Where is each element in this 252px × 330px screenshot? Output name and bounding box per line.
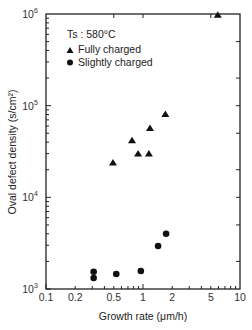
circle-marker-icon [90,269,97,276]
triangle-marker-icon [109,159,117,166]
x-tick-label: 5 [208,291,214,303]
y-tick-label: 103 [22,282,38,295]
circle-marker-icon [138,268,145,275]
triangle-marker-icon [161,111,169,118]
triangle-marker-icon [67,47,74,53]
triangle-marker-icon [134,150,142,157]
x-tick-label: 0.5 [106,291,121,303]
y-tick-label: 104 [22,190,38,203]
triangle-marker-icon [146,125,154,131]
x-tick-label: 10 [234,291,246,303]
y-tick-label: 106 [22,7,38,20]
legend-annotation: Ts : 580°C [67,28,116,40]
x-tick-label: 0.2 [68,291,83,303]
x-axis-label: Growth rate (μm/h) [99,310,187,322]
x-tick-label: 1 [140,291,146,303]
scatter-chart: 0.10.20.512510103104105106 Growth rate (… [0,0,252,330]
x-tick-label: 0.1 [39,291,54,303]
y-tick-label: 105 [22,99,38,112]
circle-marker-icon [90,275,97,282]
circle-marker-icon [113,271,120,278]
triangle-marker-icon [145,150,153,157]
circle-marker-icon [163,231,170,238]
x-tick-label: 2 [169,291,175,303]
circle-marker-icon [67,60,73,66]
circle-marker-icon [155,243,162,250]
legend-slightly-charged: Slightly charged [78,56,153,68]
y-axis-label: Oval defect density (s/cm²) [6,90,18,215]
legend-fully-charged: Fully charged [78,43,141,55]
triangle-marker-icon [128,137,136,144]
legend: Ts : 580°C Fully charged Slightly charge… [67,28,153,68]
